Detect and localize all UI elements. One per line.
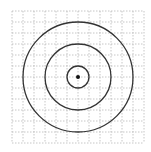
concentric-circles-diagram — [0, 0, 151, 152]
center-dot — [76, 75, 80, 79]
